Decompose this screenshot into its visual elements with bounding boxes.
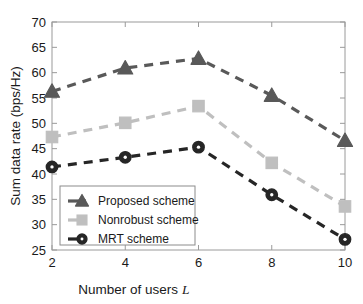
y-axis-title-text: Sum data rate (bps/Hz) <box>8 66 23 206</box>
data-point-marker <box>266 189 277 200</box>
y-tick-label: 30 <box>32 217 46 232</box>
legend-label-triangle: Proposed scheme <box>98 194 195 208</box>
y-tick-label: 40 <box>32 167 46 182</box>
x-tick-label: 4 <box>122 255 129 270</box>
chart-figure: 25303540455055606570 246810 Sum data rat… <box>0 0 363 304</box>
x-axis-title-variable: L <box>181 282 190 297</box>
data-point-marker <box>77 215 87 225</box>
data-point-marker <box>77 234 87 244</box>
y-tick-label: 35 <box>32 192 46 207</box>
y-tick-label: 55 <box>32 91 46 106</box>
data-point-marker <box>266 157 277 168</box>
x-tick-label: 6 <box>195 255 202 270</box>
y-tick-label: 50 <box>32 116 46 131</box>
data-point-marker <box>46 131 57 142</box>
y-tick-label: 70 <box>32 15 46 30</box>
data-point-marker <box>339 201 350 212</box>
legend-label-circle: MRT scheme <box>98 232 169 246</box>
sum-data-rate-line-chart: 25303540455055606570 246810 Sum data rat… <box>0 0 363 304</box>
data-point-marker <box>120 152 131 163</box>
data-point-marker <box>339 234 350 245</box>
x-axis-title: Number of users L <box>78 282 189 297</box>
x-tick-label: 10 <box>338 255 352 270</box>
x-tick-label: 8 <box>268 255 275 270</box>
x-axis-title-text: Number of users <box>78 282 178 297</box>
y-axis-title: Sum data rate (bps/Hz) <box>8 66 23 206</box>
x-tick-label: 2 <box>48 255 55 270</box>
y-tick-label: 25 <box>32 243 46 258</box>
data-point-marker <box>193 141 204 152</box>
legend-label-square: Nonrobust scheme <box>98 213 199 227</box>
data-point-marker <box>46 161 57 172</box>
data-point-marker <box>120 117 131 128</box>
data-point-marker <box>193 100 204 111</box>
y-tick-label: 60 <box>32 65 46 80</box>
chart-legend: Proposed schemeNonrobust schemeMRT schem… <box>60 186 199 246</box>
y-tick-label: 65 <box>32 40 46 55</box>
y-tick-label: 45 <box>32 141 46 156</box>
